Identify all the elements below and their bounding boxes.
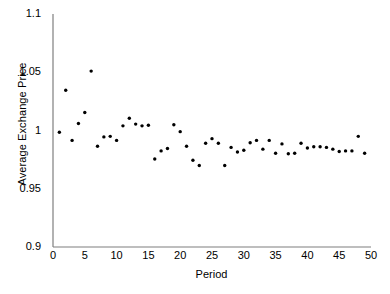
x-tick-label: 0	[41, 250, 65, 261]
x-tick-label: 20	[168, 250, 192, 261]
x-tick-label: 15	[136, 250, 160, 261]
x-tick-label: 50	[359, 250, 383, 261]
x-tick-label: 10	[105, 250, 129, 261]
scatter-chart-figure: 0.90.9511.051.1 05101520253035404550 Ave…	[0, 0, 390, 294]
x-tick-label: 40	[295, 250, 319, 261]
y-axis-title: Average Exchange Price	[14, 1, 30, 247]
x-tick-label: 25	[200, 250, 224, 261]
x-tick-label: 35	[264, 250, 288, 261]
x-axis-title: Period	[53, 268, 370, 280]
x-tick-label: 5	[73, 250, 97, 261]
x-tick-label: 45	[327, 250, 351, 261]
x-tick-label: 30	[232, 250, 256, 261]
x-axis-tick-labels: 05101520253035404550	[0, 0, 390, 294]
